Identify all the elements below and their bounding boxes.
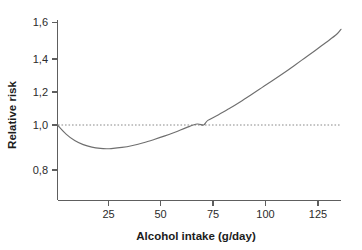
x-tick-label-125: 125 [309,208,327,220]
y-tick-label-1-0: 1,0 [33,119,48,131]
y-tick-label-0-8: 0,8 [33,164,48,176]
x-tick-label-100: 100 [256,208,274,220]
x-tick-label-50: 50 [154,208,166,220]
y-tick-label-1-2: 1,2 [33,86,48,98]
x-tick-label-25: 25 [102,208,114,220]
chart-figure: Relative risk 1,6 1,4 1,2 1,0 0,8 [0,0,362,250]
y-tick-label-1-6: 1,6 [33,16,48,28]
y-axis-title: Relative risk [6,81,18,149]
y-tick-label-1-4: 1,4 [33,53,48,65]
x-axis-title: Alcohol intake (g/day) [136,230,256,242]
relative-risk-line-chart: Relative risk 1,6 1,4 1,2 1,0 0,8 [0,0,362,250]
x-tick-label-75: 75 [207,208,219,220]
